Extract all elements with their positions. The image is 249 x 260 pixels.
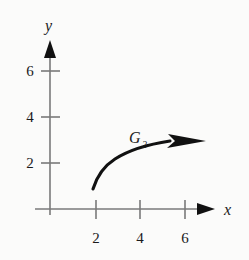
y-axis-arrowhead	[44, 40, 56, 58]
x-tick-label-4: 4	[136, 230, 144, 246]
coordinate-plot: 2 4 6 2 4 6 y x G 2	[0, 0, 249, 260]
y-axis-label: y	[43, 17, 53, 35]
curve-g2	[93, 141, 170, 189]
y-tick-label-2: 2	[26, 155, 34, 171]
curve-label-subscript: 2	[142, 139, 147, 150]
y-tick-label-4: 4	[26, 109, 34, 125]
graph-figure: 2 4 6 2 4 6 y x G 2	[0, 0, 249, 260]
x-axis-arrowhead	[197, 203, 215, 215]
x-tick-label-6: 6	[181, 230, 189, 246]
curve-arrowhead	[167, 134, 206, 148]
curve-label-g: G	[129, 129, 141, 146]
x-axis-label: x	[223, 201, 231, 218]
y-tick-label-6: 6	[26, 63, 34, 79]
x-tick-label-2: 2	[92, 230, 100, 246]
